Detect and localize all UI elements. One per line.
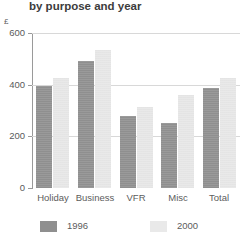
chart-title: by purpose and year [29,0,141,12]
category-label-total: Total [198,192,240,203]
gridline [32,33,240,34]
y-axis-tick-label: 200 [0,130,25,141]
category-label-business: Business [74,192,116,203]
y-axis-tick-label: 400 [0,79,25,90]
category-label-holiday: Holiday [32,192,74,203]
y-axis-tick-label: 600 [0,27,25,38]
bar-misc-2000 [178,95,194,188]
y-axis-tick-label: 0 [0,182,25,193]
bar-total-1996 [203,88,219,188]
bar-business-2000 [95,50,111,188]
bar-holiday-1996 [36,86,52,188]
legend-swatch-2000 [150,221,167,232]
legend-label-2000: 2000 [177,220,198,231]
category-label-misc: Misc [157,192,199,203]
bar-business-1996 [78,61,94,188]
y-axis-tick-mark [28,188,32,189]
bar-chart-figure: by purpose and year £ 0200400600 Holiday… [0,0,244,245]
chart-legend: 19962000 [0,218,244,240]
bar-vfr-1996 [120,116,136,188]
legend-swatch-1996 [40,221,57,232]
bar-vfr-2000 [137,107,153,188]
legend-label-1996: 1996 [67,220,88,231]
category-label-vfr: VFR [115,192,157,203]
y-axis-unit-label: £ [4,17,8,26]
bar-misc-1996 [161,123,177,188]
bar-holiday-2000 [53,78,69,188]
bar-total-2000 [220,78,236,188]
